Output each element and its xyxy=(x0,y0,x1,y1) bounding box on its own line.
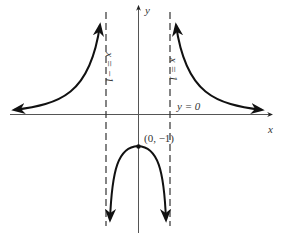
function-graph xyxy=(0,0,283,241)
point-0-neg1 xyxy=(136,144,140,148)
x-axis-label: x xyxy=(268,124,273,135)
y-axis-label: y xyxy=(145,5,150,16)
asymptote-left-label: x = −1 xyxy=(104,52,115,83)
asymptote-horizontal-label: y = 0 xyxy=(177,101,200,112)
point-label: (0, −1) xyxy=(144,133,174,144)
curve-right-branch xyxy=(176,25,262,110)
curve-left-branch xyxy=(14,25,100,110)
asymptote-right-label: x = 1 xyxy=(168,58,179,81)
